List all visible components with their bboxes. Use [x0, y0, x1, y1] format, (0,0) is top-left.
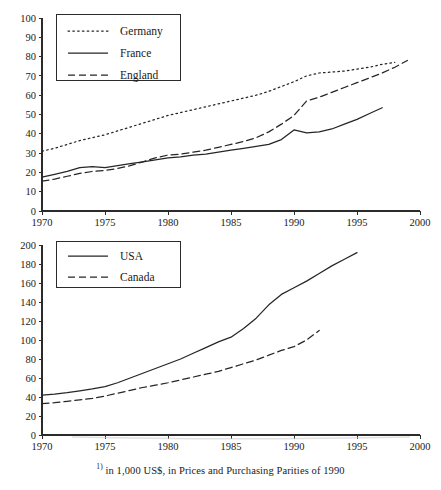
x-axis-tick-label: 1990	[284, 441, 305, 452]
x-axis-tick-label: 2000	[410, 217, 431, 228]
y-axis-tick-label: 60	[26, 373, 37, 384]
y-axis-tick-label: 100	[20, 335, 36, 346]
y-axis-tick-label: 50	[26, 109, 37, 120]
x-axis-tick-label: 1970	[32, 217, 53, 228]
y-axis-tick-label: 80	[26, 51, 37, 62]
x-axis-tick-label: 1980	[158, 441, 179, 452]
y-axis-tick-label: 30	[26, 148, 37, 159]
x-axis-tick-label: 1990	[284, 217, 305, 228]
y-axis-tick-label: 120	[20, 316, 36, 327]
series-line-france	[42, 108, 382, 177]
x-axis-tick-label: 1985	[221, 217, 242, 228]
y-axis-tick-label: 0	[31, 206, 36, 217]
y-axis-tick-label: 40	[26, 128, 37, 139]
x-axis-tick-label: 1975	[95, 217, 116, 228]
legend-label-usa: USA	[120, 250, 144, 262]
y-axis-tick-label: 100	[20, 13, 36, 24]
x-axis-tick-label: 1995	[347, 441, 368, 452]
legend-box	[56, 14, 180, 80]
x-axis-tick-label: 2000	[410, 441, 431, 452]
y-axis-tick-label: 20	[26, 167, 37, 178]
legend-label-england: England	[120, 69, 159, 82]
y-axis-tick-label: 60	[26, 90, 37, 101]
x-axis-tick-label: 1985	[221, 441, 242, 452]
chart-panel-bottom: 0204060801001201401601802001970197519801…	[0, 232, 441, 460]
y-axis-tick-label: 10	[26, 186, 37, 197]
figure-container: 0102030405060708090100197019751980198519…	[0, 0, 441, 490]
y-axis-tick-label: 80	[26, 354, 37, 365]
y-axis-tick-label: 160	[20, 278, 36, 289]
y-axis-tick-label: 20	[26, 411, 37, 422]
y-axis-tick-label: 70	[26, 71, 37, 82]
legend-label-canada: Canada	[120, 271, 154, 283]
y-axis-tick-label: 140	[20, 297, 36, 308]
line-chart-europe: 0102030405060708090100197019751980198519…	[0, 0, 441, 232]
y-axis-tick-label: 90	[26, 32, 37, 43]
series-line-canada	[42, 331, 319, 404]
footnote: 1) in 1,000 US$, in Prices and Purchasin…	[0, 462, 441, 476]
y-axis-tick-label: 200	[20, 240, 36, 251]
x-axis-tick-label: 1970	[32, 441, 53, 452]
x-axis-tick-label: 1975	[95, 441, 116, 452]
legend-label-germany: Germany	[120, 25, 163, 38]
chart-panel-top: 0102030405060708090100197019751980198519…	[0, 0, 441, 232]
x-axis-tick-label: 1980	[158, 217, 179, 228]
y-axis-tick-label: 40	[26, 392, 37, 403]
y-axis-tick-label: 180	[20, 259, 36, 270]
scan-artifact	[72, 437, 410, 439]
line-chart-north-america: 0204060801001201401601802001970197519801…	[0, 232, 441, 460]
footnote-text: in 1,000 US$, in Prices and Purchasing P…	[103, 465, 345, 476]
legend-box	[56, 241, 180, 287]
legend-label-france: France	[120, 47, 151, 59]
x-axis-tick-label: 1995	[347, 217, 368, 228]
y-axis-tick-label: 0	[31, 430, 36, 441]
